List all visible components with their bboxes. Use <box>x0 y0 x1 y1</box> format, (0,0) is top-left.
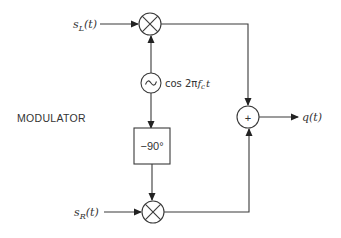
top-to-adder-line <box>161 24 248 105</box>
input-right-label: sR(t) <box>74 206 99 221</box>
bottom-to-adder-line <box>164 129 249 212</box>
adder: + <box>237 106 259 128</box>
modulator-diagram: cos 2πfct −90° + q(t) sL(t) sR(t) MODULA… <box>0 0 341 238</box>
input-left-label: sL(t) <box>73 18 97 33</box>
plus-icon: + <box>245 112 251 124</box>
bottom-multiplier <box>142 201 164 223</box>
phase-shifter-label: −90° <box>140 140 163 152</box>
top-multiplier <box>139 13 161 35</box>
oscillator-label: cos 2πfct <box>165 78 211 91</box>
output-label: q(t) <box>302 111 322 124</box>
modulator-title: MODULATOR <box>17 112 86 124</box>
oscillator <box>141 73 161 93</box>
